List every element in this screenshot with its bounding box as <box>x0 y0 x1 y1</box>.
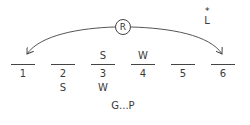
floating-letter-l: L <box>197 16 217 26</box>
circled-marker-r: R <box>115 19 131 35</box>
slot-number-6: 6 <box>213 69 233 79</box>
slot-number-2: 2 <box>53 69 73 79</box>
constraint-note-g-before-p: G...P <box>103 101 143 111</box>
puzzle-diagram: R * L 1 2 S S 3 W W 4 5 6 G...P <box>0 0 250 125</box>
slot-number-3: 3 <box>93 69 113 79</box>
slot-2-below-s: S <box>53 83 73 93</box>
slot-line-6 <box>211 64 235 65</box>
slot-line-2 <box>51 64 75 65</box>
slot-3-below-w: W <box>93 83 113 93</box>
slot-line-1 <box>11 64 35 65</box>
slot-line-5 <box>171 64 195 65</box>
slot-line-3 <box>91 64 115 65</box>
slot-number-5: 5 <box>173 69 193 79</box>
slot-line-4 <box>131 64 155 65</box>
slot-4-above-w: W <box>133 51 153 61</box>
slot-3-above-s: S <box>93 51 113 61</box>
slot-number-1: 1 <box>13 69 33 79</box>
slot-number-4: 4 <box>133 69 153 79</box>
